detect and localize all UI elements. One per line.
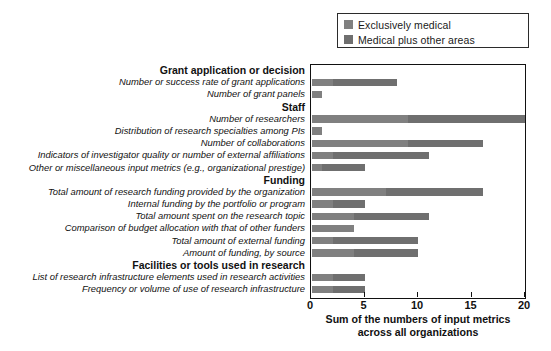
bar-segment-exclusively-medical	[312, 127, 323, 134]
bar-track	[312, 113, 526, 125]
x-tick-label-0: 0	[307, 299, 313, 311]
category-row: Staff	[0, 101, 551, 113]
x-tick-0	[310, 292, 311, 297]
legend-swatch-medical-plus-other	[344, 35, 353, 44]
bar-segment-exclusively-medical	[312, 91, 323, 98]
bar-segment-medical-plus-other	[408, 140, 483, 147]
metric-label-other-or-miscellaneous-input-metrics-e-g-organiz: Other or miscellaneous input metrics (e.…	[29, 162, 305, 174]
bar-segment-medical-plus-other	[333, 237, 419, 244]
metric-row: Amount of funding, by source	[0, 247, 551, 259]
bar-segment-medical-plus-other	[408, 115, 526, 122]
bar-segment-exclusively-medical	[312, 249, 355, 256]
x-axis: 05101520	[310, 297, 527, 298]
bar-track	[312, 210, 526, 222]
x-tick-20	[524, 292, 525, 297]
bar-segment-exclusively-medical	[312, 213, 355, 220]
bar-segment-medical-plus-other	[333, 200, 365, 207]
legend-swatch-exclusively-medical	[344, 20, 353, 29]
metric-row: Number or success rate of grant applicat…	[0, 76, 551, 88]
bar-segment-exclusively-medical	[312, 152, 333, 159]
metric-label-number-of-grant-panels: Number of grant panels	[207, 88, 305, 100]
bar-segment-exclusively-medical	[312, 115, 408, 122]
category-label-funding: Funding	[264, 174, 305, 186]
x-tick-label-10: 10	[411, 299, 423, 311]
bar-track	[312, 186, 526, 198]
bar-track	[312, 235, 526, 247]
metric-row: Number of researchers	[0, 113, 551, 125]
x-axis-title-line1: Sum of the numbers of input metrics	[310, 313, 526, 326]
bar-track	[312, 271, 526, 283]
metric-label-distribution-of-research-specialties-among-pis: Distribution of research specialties amo…	[115, 125, 305, 137]
metric-label-indicators-of-investigator-quality-or-number-of-: Indicators of investigator quality or nu…	[38, 149, 305, 161]
legend-item-medical-plus-other: Medical plus other areas	[344, 32, 528, 47]
x-tick-label-5: 5	[360, 299, 366, 311]
bar-track	[312, 76, 526, 88]
chart-legend: Exclusively medical Medical plus other a…	[337, 13, 529, 48]
legend-item-exclusively-medical: Exclusively medical	[344, 17, 528, 32]
chart-rows: Grant application or decisionNumber or s…	[0, 64, 551, 297]
bar-segment-exclusively-medical	[312, 164, 323, 171]
bar-segment-exclusively-medical	[312, 140, 408, 147]
bar-track	[312, 222, 526, 234]
metric-row: Total amount spent on the research topic	[0, 210, 551, 222]
metric-row: Number of grant panels	[0, 88, 551, 100]
bar-track	[312, 137, 526, 149]
bar-segment-medical-plus-other	[333, 79, 397, 86]
metric-row: Comparison of budget allocation with tha…	[0, 222, 551, 234]
category-row: Funding	[0, 174, 551, 186]
metric-label-total-amount-spent-on-the-research-topic: Total amount spent on the research topic	[135, 210, 305, 222]
metric-row: Internal funding by the portfolio or pro…	[0, 198, 551, 210]
x-tick-label-20: 20	[518, 299, 530, 311]
chart-root: Exclusively medical Medical plus other a…	[0, 0, 551, 351]
bar-track	[312, 198, 526, 210]
bar-track	[312, 88, 526, 100]
bar-segment-exclusively-medical	[312, 274, 333, 281]
metric-label-number-of-collaborations: Number of collaborations	[201, 137, 305, 149]
category-row: Facilities or tools used in research	[0, 259, 551, 271]
metric-label-comparison-of-budget-allocation-with-that-of-oth: Comparison of budget allocation with tha…	[65, 222, 305, 234]
metric-row: Distribution of research specialties amo…	[0, 125, 551, 137]
bar-segment-exclusively-medical	[312, 79, 333, 86]
metric-label-number-of-researchers: Number of researchers	[209, 113, 305, 125]
metric-label-number-or-success-rate-of-grant-applications: Number or success rate of grant applicat…	[119, 76, 305, 88]
bar-segment-medical-plus-other	[386, 188, 482, 195]
bar-segment-exclusively-medical	[312, 200, 333, 207]
bar-segment-exclusively-medical	[312, 188, 387, 195]
metric-label-amount-of-funding-by-source: Amount of funding, by source	[183, 247, 305, 259]
bar-track	[312, 149, 526, 161]
bar-segment-exclusively-medical	[312, 286, 333, 293]
x-axis-title-line2: across all organizations	[310, 326, 526, 339]
bar-track	[312, 162, 526, 174]
x-tick-15	[471, 292, 472, 297]
bar-segment-medical-plus-other	[354, 213, 429, 220]
metric-row: Total amount of external funding	[0, 235, 551, 247]
category-row: Grant application or decision	[0, 64, 551, 76]
bar-segment-medical-plus-other	[333, 274, 365, 281]
legend-label-medical-plus-other: Medical plus other areas	[358, 34, 475, 46]
metric-row: Indicators of investigator quality or nu…	[0, 149, 551, 161]
category-label-facilities-or-tools-used-in-research: Facilities or tools used in research	[132, 259, 305, 271]
metric-row: Frequency or volume of use of research i…	[0, 283, 551, 295]
metric-label-total-amount-of-research-funding-provided-by-the: Total amount of research funding provide…	[48, 186, 305, 198]
metric-row: List of research infrastructure elements…	[0, 271, 551, 283]
x-tick-label-15: 15	[464, 299, 476, 311]
metric-row: Other or miscellaneous input metrics (e.…	[0, 162, 551, 174]
bar-track	[312, 125, 526, 137]
bar-track	[312, 283, 526, 295]
metric-label-total-amount-of-external-funding: Total amount of external funding	[171, 235, 305, 247]
category-label-staff: Staff	[282, 101, 305, 113]
bar-segment-medical-plus-other	[333, 152, 429, 159]
bar-segment-medical-plus-other	[333, 286, 365, 293]
metric-row: Number of collaborations	[0, 137, 551, 149]
metric-row: Total amount of research funding provide…	[0, 186, 551, 198]
x-axis-title: Sum of the numbers of input metrics acro…	[310, 313, 526, 338]
metric-label-frequency-or-volume-of-use-of-research-infrastru: Frequency or volume of use of research i…	[82, 283, 305, 295]
x-tick-5	[364, 292, 365, 297]
bar-segment-medical-plus-other	[354, 249, 418, 256]
bar-segment-exclusively-medical	[312, 237, 333, 244]
x-tick-10	[417, 292, 418, 297]
metric-label-list-of-research-infrastructure-elements-used-in: List of research infrastructure elements…	[32, 271, 305, 283]
category-label-grant-application-or-decision: Grant application or decision	[160, 64, 305, 76]
metric-label-internal-funding-by-the-portfolio-or-program: Internal funding by the portfolio or pro…	[128, 198, 305, 210]
bar-segment-exclusively-medical	[312, 225, 355, 232]
